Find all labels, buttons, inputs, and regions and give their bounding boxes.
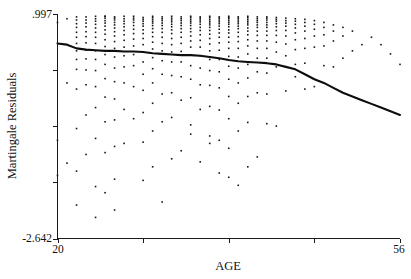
data-point [133,28,135,30]
data-point [123,40,125,42]
data-point [323,34,325,36]
data-point [133,25,135,27]
data-point [190,31,192,33]
data-point [237,102,239,104]
data-point [142,29,144,31]
data-point [161,28,163,30]
data-point [161,121,163,123]
data-point [285,25,287,27]
x-tick-label-left: 20 [52,243,64,255]
data-point [247,24,249,26]
data-point [295,49,297,51]
data-point [247,53,249,55]
data-point [161,18,163,20]
data-point [142,73,144,75]
data-point [237,32,239,34]
data-point [237,36,239,38]
martingale-residual-plot: .997 -2.642 20 56 AGE Martingale Residua… [0,0,411,279]
data-point [333,30,335,32]
data-point [199,109,201,111]
data-point [171,44,173,46]
data-point [171,117,173,119]
data-point [142,23,144,25]
data-point [390,53,392,55]
data-point [171,38,173,40]
data-point [114,24,116,26]
data-point [237,17,239,19]
data-point [276,17,278,19]
data-point [123,20,125,22]
data-point [266,24,268,26]
axes-layer [53,14,401,243]
data-point [190,17,192,19]
data-point [256,27,258,29]
data-point [209,30,211,32]
data-point [237,28,239,30]
data-point [123,23,125,25]
data-point [285,22,287,24]
data-point [276,23,278,25]
data-point [314,24,316,26]
data-point [256,24,258,26]
data-point [218,36,220,38]
data-point [171,15,173,17]
data-point [247,45,249,47]
data-point [171,51,173,53]
data-point [314,46,316,48]
data-point [180,76,182,78]
data-point [114,119,116,121]
data-point [237,56,239,58]
data-point [133,19,135,21]
data-point [76,23,78,25]
data-point [285,17,287,19]
data-point [171,158,173,160]
data-point [76,27,78,29]
data-point [190,124,192,126]
data-point [85,84,87,86]
data-point [342,35,344,37]
data-point [209,70,211,72]
data-point [256,57,258,59]
data-point [114,27,116,29]
data-point [180,18,182,20]
x-axis-title: AGE [215,259,241,273]
data-point [237,23,239,25]
data-point [114,19,116,21]
data-point [190,65,192,67]
data-point [218,49,220,51]
data-point [247,96,249,98]
data-point [180,51,182,53]
data-point [266,30,268,32]
data-point [133,33,135,35]
data-point [95,36,97,38]
data-point [199,40,201,42]
data-point [276,30,278,32]
x-tick-label-right: 56 [393,243,405,255]
data-point [285,43,287,45]
data-point [228,148,230,150]
data-point [209,17,211,19]
data-point [114,56,116,58]
data-point [95,27,97,29]
data-point [95,59,97,61]
data-point [247,34,249,36]
data-point [314,28,316,30]
data-point [123,46,125,48]
data-point [142,19,144,21]
data-point [85,42,87,44]
data-point [142,61,144,63]
data-point [209,106,211,108]
data-point [114,35,116,37]
data-point [171,17,173,19]
data-point [152,25,154,27]
data-point [104,192,106,194]
data-point [209,33,211,35]
data-point [76,43,78,45]
data-point [95,15,97,17]
data-point [209,50,211,52]
data-point [228,26,230,28]
data-point [152,68,154,70]
data-point [104,64,106,66]
data-point [218,21,220,23]
data-point [114,16,116,18]
